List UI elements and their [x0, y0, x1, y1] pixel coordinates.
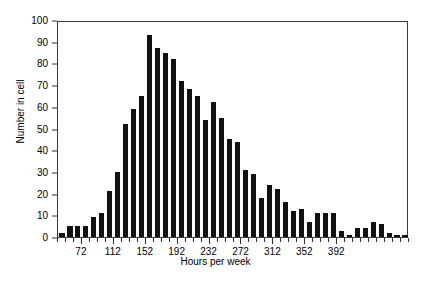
x-tick-mark [225, 238, 226, 242]
x-tick-mark [129, 238, 130, 242]
x-tick-mark [161, 238, 162, 242]
x-tick-mark [384, 238, 385, 242]
x-tick-mark [256, 238, 257, 242]
x-tick-mark-major [209, 238, 210, 244]
histogram-bar [91, 217, 96, 237]
histogram-bar [355, 228, 360, 237]
histogram-bar [187, 89, 192, 237]
histogram-bar [307, 222, 312, 237]
x-tick-mark [97, 238, 98, 242]
x-tick-mark [312, 238, 313, 242]
histogram-bar [315, 213, 320, 237]
histogram-bar [75, 226, 80, 237]
x-tick-mark [352, 238, 353, 242]
x-tick-mark [137, 238, 138, 242]
x-tick-mark-major [240, 238, 241, 244]
y-tick-label: 20 [37, 190, 48, 200]
x-tick-mark [169, 238, 170, 242]
x-tick-mark [392, 238, 393, 242]
x-tick-mark [233, 238, 234, 242]
histogram-bar [275, 189, 280, 237]
y-axis: 0102030405060708090100 [0, 0, 57, 260]
x-tick-mark [296, 238, 297, 242]
x-tick-mark [328, 238, 329, 242]
histogram-bar [299, 209, 304, 237]
x-tick-mark [344, 238, 345, 242]
histogram-bar [235, 142, 240, 237]
histogram-bar [243, 170, 248, 237]
x-tick-mark-major [81, 238, 82, 244]
histogram-bar [123, 124, 128, 237]
x-tick-mark [368, 238, 369, 242]
x-tick-mark-major [272, 238, 273, 244]
x-tick-mark [57, 238, 58, 242]
x-tick-mark-major [145, 238, 146, 244]
histogram-bar [163, 53, 168, 237]
histogram-bar [227, 139, 232, 237]
y-tick-label: 90 [37, 38, 48, 48]
x-tick-mark [400, 238, 401, 242]
x-tick-mark [105, 238, 106, 242]
x-tick-mark [408, 238, 409, 242]
x-tick-mark-major [304, 238, 305, 244]
histogram-bar [291, 211, 296, 237]
histogram-bar [219, 118, 224, 237]
x-tick-mark-major [336, 238, 337, 244]
histogram-bar [67, 226, 72, 237]
histogram-bar [339, 231, 344, 238]
x-tick-mark-major [177, 238, 178, 244]
y-tick-label: 80 [37, 59, 48, 69]
y-tick-label: 50 [37, 125, 48, 135]
histogram-bar [259, 198, 264, 237]
x-axis-title: Hours per week [0, 256, 431, 267]
x-tick-mark [185, 238, 186, 242]
histogram-bar [363, 228, 368, 237]
histogram-bar [83, 226, 88, 237]
x-tick-mark [217, 238, 218, 242]
x-tick-mark [320, 238, 321, 242]
histogram-bar [107, 191, 112, 237]
histogram-bar [171, 59, 176, 237]
histogram-bar [115, 172, 120, 237]
histogram-chart: Number in cell 0102030405060708090100 72… [0, 0, 431, 286]
histogram-bar [211, 102, 216, 237]
histogram-bar [139, 96, 144, 237]
x-tick-mark [280, 238, 281, 242]
histogram-bar [131, 109, 136, 237]
histogram-bar [371, 222, 376, 237]
x-tick-mark [201, 238, 202, 242]
histogram-bar [283, 202, 288, 237]
y-tick-label: 100 [31, 16, 48, 26]
histogram-bar [402, 235, 407, 237]
histogram-bar [331, 213, 336, 237]
x-tick-mark [121, 238, 122, 242]
histogram-bar [394, 235, 399, 237]
plot-area [57, 21, 408, 238]
histogram-bar [195, 96, 200, 237]
x-tick-mark [193, 238, 194, 242]
histogram-bar [379, 224, 384, 237]
histogram-bar [347, 235, 352, 237]
x-tick-mark [288, 238, 289, 242]
histogram-bar [323, 213, 328, 237]
x-tick-mark [65, 238, 66, 242]
x-tick-mark [153, 238, 154, 242]
x-tick-mark [360, 238, 361, 242]
histogram-bar [59, 233, 64, 237]
y-tick-label: 70 [37, 81, 48, 91]
histogram-bar [203, 120, 208, 237]
x-tick-mark [73, 238, 74, 242]
x-tick-mark [248, 238, 249, 242]
y-tick-label: 40 [37, 146, 48, 156]
histogram-bar [267, 185, 272, 237]
histogram-bar [251, 174, 256, 237]
histogram-bar [179, 81, 184, 237]
y-tick-label: 10 [37, 211, 48, 221]
histogram-bar [99, 213, 104, 237]
x-tick-mark [89, 238, 90, 242]
y-tick-label: 60 [37, 103, 48, 113]
x-tick-mark [376, 238, 377, 242]
bars-container [58, 22, 407, 237]
histogram-bar [387, 233, 392, 237]
histogram-bar [147, 35, 152, 237]
